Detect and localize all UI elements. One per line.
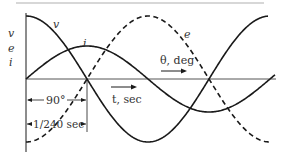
curve-label-i: i (83, 37, 87, 50)
time-axis-label: t, sec (112, 93, 142, 106)
axis-label-i: i (9, 56, 13, 69)
phase-dimension-label: 90° (46, 94, 66, 107)
axis-label-v: v (8, 27, 15, 40)
curve-label-v: v (53, 18, 60, 31)
waveform-diagram: v e i v i e θ, deg t, sec 90° 1/240 sec (0, 0, 288, 161)
curve-label-e: e (184, 28, 191, 41)
angle-axis-label: θ, deg (160, 54, 194, 67)
phase-dim-arrow-left-icon (27, 98, 32, 102)
axis-label-e: e (8, 42, 15, 55)
time-dimension-label: 1/240 sec (33, 118, 84, 130)
angle-arrow-head-icon (181, 69, 187, 74)
phase-dim-arrow-right-icon (81, 98, 86, 102)
time-arrow-head-icon (131, 85, 137, 90)
